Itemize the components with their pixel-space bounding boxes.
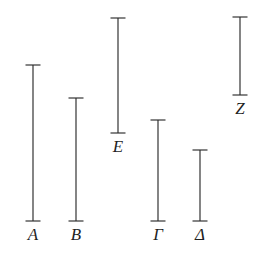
magnitude-segment [111, 18, 126, 133]
segment-label: Z [235, 100, 244, 117]
figure-canvas [0, 0, 270, 280]
segments-group [26, 17, 248, 221]
segment-label: E [113, 138, 123, 155]
magnitude-segment [26, 65, 41, 221]
segment-label: B [71, 226, 81, 243]
segment-label: A [28, 226, 38, 243]
magnitude-segment [233, 17, 248, 95]
geometry-figure: ABΓΔEZ [0, 0, 270, 280]
magnitude-segment [69, 98, 84, 221]
magnitude-segment [151, 120, 166, 221]
segment-label: Γ [153, 226, 163, 243]
segment-label: Δ [195, 226, 205, 243]
magnitude-segment [193, 150, 208, 221]
